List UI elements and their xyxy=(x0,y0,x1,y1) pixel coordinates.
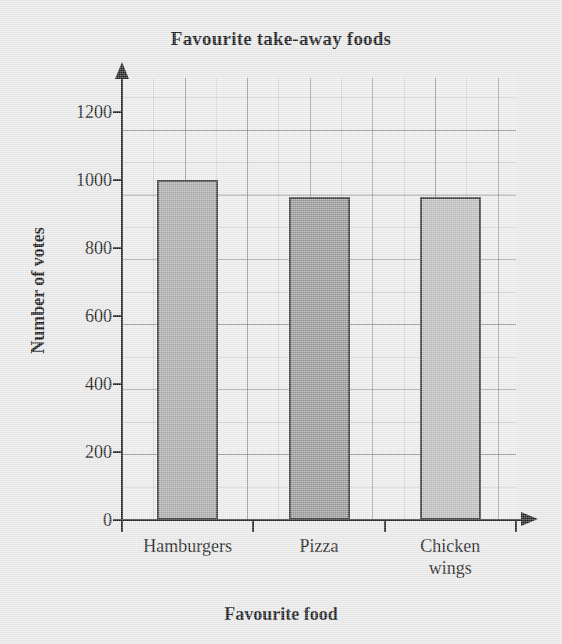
y-tick-1200 xyxy=(113,111,123,113)
y-tick-800 xyxy=(113,247,123,249)
x-label-pizza: Pizza xyxy=(253,536,384,558)
y-tick-label-1200: 1200 xyxy=(46,103,112,121)
x-tick-3 xyxy=(515,520,517,532)
y-tick-400 xyxy=(113,383,123,385)
y-tick-200 xyxy=(113,451,123,453)
y-axis-line xyxy=(121,76,123,522)
x-label-line: Chicken xyxy=(385,536,516,558)
x-label-line: wings xyxy=(385,558,516,580)
x-tick-2 xyxy=(384,520,386,532)
bar-hamburgers xyxy=(157,180,218,520)
y-tick-label-0: 0 xyxy=(46,511,112,529)
bar-fill-pizza xyxy=(291,199,348,518)
x-label-hamburgers: Hamburgers xyxy=(122,536,253,558)
y-axis-title: Number of votes xyxy=(28,191,49,391)
x-label-chicken-wings: Chickenwings xyxy=(385,536,516,580)
y-tick-1000 xyxy=(113,179,123,181)
plot-area xyxy=(122,78,516,520)
x-tick-0 xyxy=(121,520,123,532)
x-axis-line xyxy=(121,519,525,521)
bar-pizza xyxy=(289,197,350,520)
x-tick-1 xyxy=(252,520,254,532)
chart-title: Favourite take-away foods xyxy=(0,28,562,50)
y-tick-label-1000: 1000 xyxy=(46,171,112,189)
bar-chicken-wings xyxy=(420,197,481,520)
y-tick-label-400: 400 xyxy=(46,375,112,393)
x-axis-title: Favourite food xyxy=(0,604,562,625)
y-tick-600 xyxy=(113,315,123,317)
y-tick-label-200: 200 xyxy=(46,443,112,461)
x-label-line: Hamburgers xyxy=(122,536,253,558)
bar-chart-figure: Favourite take-away foods 02004006008001… xyxy=(0,0,562,644)
y-axis-arrow-icon xyxy=(115,62,129,79)
x-axis-arrow-icon xyxy=(521,512,538,526)
bar-fill-chicken-wings xyxy=(422,199,479,518)
y-tick-label-600: 600 xyxy=(46,307,112,325)
bar-fill-hamburgers xyxy=(159,182,216,518)
x-label-line: Pizza xyxy=(253,536,384,558)
y-tick-label-800: 800 xyxy=(46,239,112,257)
